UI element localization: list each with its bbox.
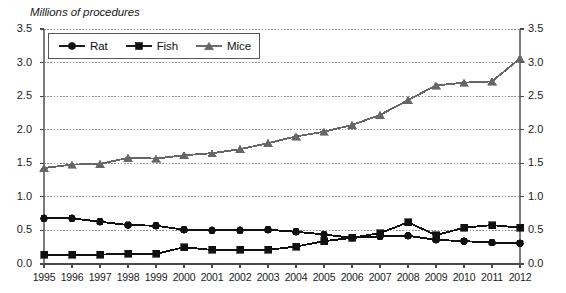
x-tick-label: 1995 xyxy=(30,272,58,283)
x-tick-label: 2005 xyxy=(310,272,338,283)
x-tick-label: 2002 xyxy=(226,272,254,283)
y-tick-label-left: 0.0 xyxy=(6,258,32,268)
legend-item-fish[interactable]: Fish xyxy=(124,39,178,53)
y-tick-label-right: 3.5 xyxy=(528,23,554,33)
x-tick-label: 1999 xyxy=(142,272,170,283)
y-tick-label-left: 0.5 xyxy=(6,224,32,234)
y-tick-label-right: 1.5 xyxy=(528,157,554,167)
series-fish xyxy=(41,219,524,258)
x-tick-label: 2004 xyxy=(282,272,310,283)
series-mice xyxy=(40,55,525,172)
y-tick-label-right: 1.0 xyxy=(528,191,554,201)
chart-legend: RatFishMice xyxy=(48,33,260,59)
x-tick-label: 2001 xyxy=(198,272,226,283)
legend-label: Rat xyxy=(90,40,108,52)
y-tick-label-right: 0.0 xyxy=(528,258,554,268)
x-tick-label: 1997 xyxy=(86,272,114,283)
x-tick-label: 2008 xyxy=(394,272,422,283)
y-tick-label-left: 2.5 xyxy=(6,90,32,100)
y-tick-label-right: 2.5 xyxy=(528,90,554,100)
chart-figure: Millions of procedures RatFishMice 3.53.… xyxy=(0,0,566,293)
y-tick-label-left: 1.0 xyxy=(6,191,32,201)
y-tick-label-left: 3.0 xyxy=(6,57,32,67)
y-tick-label-left: 3.5 xyxy=(6,23,32,33)
y-tick-label-right: 3.0 xyxy=(528,57,554,67)
x-tick-label: 2003 xyxy=(254,272,282,283)
x-tick-label: 1998 xyxy=(114,272,142,283)
circle-marker-icon xyxy=(57,39,87,53)
legend-label: Fish xyxy=(157,40,178,52)
x-tick-label: 2009 xyxy=(422,272,450,283)
axis-lines xyxy=(44,29,520,264)
gridlines xyxy=(44,29,520,230)
x-tick-label: 1996 xyxy=(58,272,86,283)
legend-item-mice[interactable]: Mice xyxy=(194,39,251,53)
triangle-marker-icon xyxy=(194,39,224,53)
x-tick-label: 2000 xyxy=(170,272,198,283)
x-tick-label: 2006 xyxy=(338,272,366,283)
legend-item-rat[interactable]: Rat xyxy=(57,39,108,53)
y-tick-label-right: 0.5 xyxy=(528,224,554,234)
square-marker-icon xyxy=(124,39,154,53)
x-tick-label: 2012 xyxy=(506,272,534,283)
y-tick-marks xyxy=(40,29,524,264)
y-tick-label-left: 2.0 xyxy=(6,124,32,134)
x-tick-label: 2007 xyxy=(366,272,394,283)
x-tick-label: 2010 xyxy=(450,272,478,283)
x-tick-label: 2011 xyxy=(478,272,506,283)
y-tick-label-left: 1.5 xyxy=(6,157,32,167)
legend-label: Mice xyxy=(227,40,251,52)
y-tick-label-right: 2.0 xyxy=(528,124,554,134)
